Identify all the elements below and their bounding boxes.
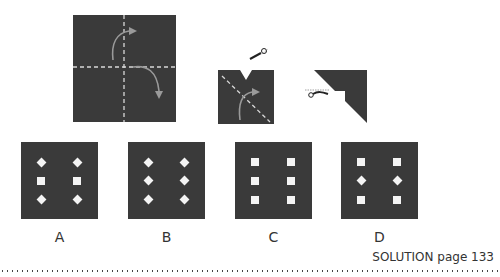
dotted-divider	[0, 270, 500, 272]
hole-diamond	[37, 195, 47, 205]
scissors-icon	[304, 84, 330, 96]
hole-square	[287, 177, 295, 185]
scissors-icon	[248, 46, 270, 60]
hole-square	[287, 158, 295, 166]
option-c-label: C	[235, 229, 312, 245]
hole-square	[251, 177, 259, 185]
hole-diamond	[144, 176, 154, 186]
option-a[interactable]	[21, 142, 98, 219]
hole-square	[37, 177, 45, 185]
option-d-label: D	[341, 229, 418, 245]
hole-square	[251, 196, 259, 204]
hole-square	[357, 196, 365, 204]
fold-diagram-1	[73, 15, 176, 122]
hole-diamond	[144, 195, 154, 205]
hole-square	[73, 177, 81, 185]
hole-diamond	[357, 176, 367, 186]
hole-diamond	[37, 158, 47, 168]
hole-square	[393, 196, 401, 204]
hole-diamond	[73, 195, 83, 205]
hole-square	[357, 158, 365, 166]
option-a-label: A	[21, 229, 98, 245]
step1-paper	[73, 15, 176, 122]
option-b-label: B	[128, 229, 205, 245]
hole-square	[251, 158, 259, 166]
hole-diamond	[144, 158, 154, 168]
hole-diamond	[180, 195, 190, 205]
option-c[interactable]	[235, 142, 312, 219]
fold-diagram-2	[218, 70, 274, 124]
option-b[interactable]	[128, 142, 205, 219]
hole-square	[287, 196, 295, 204]
hole-diamond	[180, 158, 190, 168]
option-d[interactable]	[341, 142, 418, 219]
hole-diamond	[180, 176, 190, 186]
hole-square	[393, 158, 401, 166]
hole-diamond	[393, 176, 403, 186]
solution-reference: SOLUTION page 133	[372, 250, 494, 264]
step2-paper	[218, 70, 274, 124]
hole-diamond	[73, 158, 83, 168]
